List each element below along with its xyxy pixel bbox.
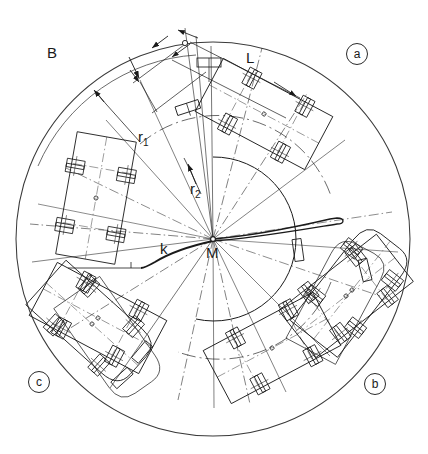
r1-arrow xyxy=(94,90,104,102)
vehicle-position-a xyxy=(193,54,335,174)
k-leader-line xyxy=(68,262,141,268)
steering-link-mid xyxy=(175,100,202,120)
B-arrow-upper xyxy=(152,36,168,48)
pivot-marker-top xyxy=(182,40,187,45)
label-length-L: L xyxy=(246,49,254,66)
r1-subscript: 1 xyxy=(143,137,149,148)
label-width-B: B xyxy=(47,44,57,61)
label-center-M: M xyxy=(206,244,219,261)
annotation-c: c xyxy=(28,371,50,393)
annotation-a: a xyxy=(346,43,368,65)
label-swept-width-k: k xyxy=(160,240,168,257)
label-outer-radius-r1: r1 xyxy=(138,128,149,148)
overlap-outline-b xyxy=(286,236,390,365)
vehicle-position-b-alt xyxy=(276,230,417,362)
label-inner-radius-r2: r2 xyxy=(190,180,201,200)
outer-construction-arc xyxy=(38,55,196,166)
detached-wheel-right-2 xyxy=(358,258,372,282)
center-point-M xyxy=(211,237,216,242)
vehicle-position-c-alt xyxy=(27,258,169,378)
vehicle-position-b xyxy=(286,220,418,361)
annotation-b: b xyxy=(364,373,386,395)
r2-subscript: 2 xyxy=(195,189,201,200)
r1-leader-line xyxy=(96,92,140,142)
swept-path-wedge xyxy=(213,218,343,241)
construction-arc-mid xyxy=(140,115,331,196)
diagram-root: B L r1 r2 k M a b c xyxy=(0,0,428,454)
